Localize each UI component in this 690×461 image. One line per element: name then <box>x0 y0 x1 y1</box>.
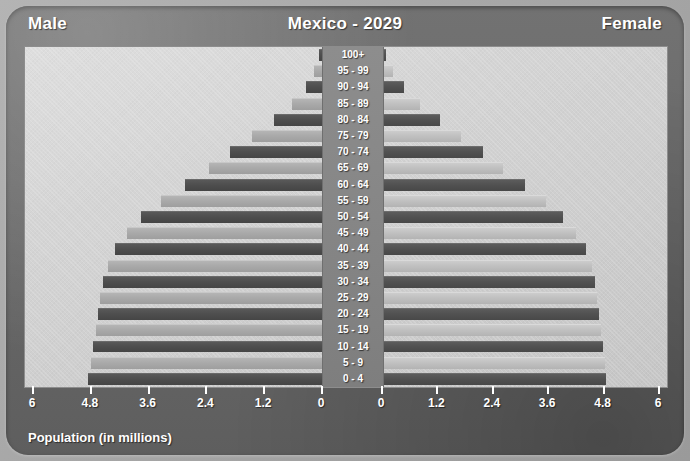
male-bar <box>252 130 322 142</box>
age-group-label: 90 - 94 <box>323 82 383 92</box>
figure-header: Male Mexico - 2029 Female <box>6 6 684 40</box>
axis-tick <box>90 386 92 394</box>
axis-tick-label-right: 6 <box>638 396 678 410</box>
male-bar <box>88 373 322 385</box>
figure-frame: Male Mexico - 2029 Female 100+95 - 9990 … <box>6 6 684 455</box>
age-group-label: 55 - 59 <box>323 196 383 206</box>
axis-tick <box>205 386 207 394</box>
male-bar <box>96 324 322 336</box>
axis-tick <box>547 386 549 394</box>
male-bar <box>230 146 322 158</box>
axis-tick-label-right: 2.4 <box>472 396 512 410</box>
male-bar <box>93 341 322 353</box>
axis-tick <box>32 386 34 394</box>
female-bar <box>382 292 597 304</box>
age-group-label: 0 - 4 <box>323 374 383 384</box>
population-pyramid-figure: Male Mexico - 2029 Female 100+95 - 9990 … <box>0 0 690 461</box>
age-group-label: 15 - 19 <box>323 325 383 335</box>
age-group-label: 35 - 39 <box>323 261 383 271</box>
age-group-label: 45 - 49 <box>323 228 383 238</box>
age-group-label: 40 - 44 <box>323 244 383 254</box>
age-group-label: 100+ <box>323 50 383 60</box>
axis-tick <box>263 386 265 394</box>
x-axis: 64.83.62.41.2001.22.43.64.86 <box>24 386 666 422</box>
age-group-label: 60 - 64 <box>323 180 383 190</box>
male-bar <box>306 81 322 93</box>
female-bar <box>382 260 592 272</box>
axis-tick <box>658 386 660 394</box>
age-group-label: 25 - 29 <box>323 293 383 303</box>
age-group-label: 65 - 69 <box>323 163 383 173</box>
female-bar <box>382 211 563 223</box>
age-group-label: 30 - 34 <box>323 277 383 287</box>
age-group-label: 95 - 99 <box>323 66 383 76</box>
female-bar <box>382 243 586 255</box>
female-bar <box>382 357 605 369</box>
axis-tick-label-left: 1.2 <box>243 396 283 410</box>
age-group-label: 20 - 24 <box>323 309 383 319</box>
male-bar <box>103 276 322 288</box>
female-bar <box>382 195 546 207</box>
female-bar <box>382 227 576 239</box>
female-bar <box>382 98 420 110</box>
axis-tick <box>603 386 605 394</box>
age-label-column: 100+95 - 9990 - 9485 - 8980 - 8475 - 797… <box>322 47 384 387</box>
male-bar <box>274 114 322 126</box>
male-bar <box>115 243 322 255</box>
male-bar <box>161 195 322 207</box>
male-bar <box>127 227 322 239</box>
female-bar <box>382 130 461 142</box>
axis-tick-label-left: 0 <box>301 396 341 410</box>
age-group-label: 70 - 74 <box>323 147 383 157</box>
chart-title: Mexico - 2029 <box>6 14 684 34</box>
male-bar <box>108 260 322 272</box>
axis-tick-label-left: 6 <box>12 396 52 410</box>
female-bar <box>382 162 503 174</box>
age-group-label: 50 - 54 <box>323 212 383 222</box>
axis-tick-label-right: 1.2 <box>416 396 456 410</box>
female-bar <box>382 146 483 158</box>
age-group-label: 85 - 89 <box>323 99 383 109</box>
age-group-label: 75 - 79 <box>323 131 383 141</box>
male-bar <box>314 65 322 77</box>
axis-caption: Population (in millions) <box>28 430 172 445</box>
female-bar <box>382 341 603 353</box>
male-bar <box>91 357 322 369</box>
age-group-label: 5 - 9 <box>323 358 383 368</box>
female-bar <box>382 114 440 126</box>
male-bar <box>98 308 322 320</box>
axis-tick-label-left: 2.4 <box>185 396 225 410</box>
age-group-label: 80 - 84 <box>323 115 383 125</box>
axis-tick-label-right: 0 <box>361 396 401 410</box>
male-bar <box>185 179 322 191</box>
axis-tick <box>492 386 494 394</box>
axis-tick <box>381 386 383 394</box>
female-bar <box>382 276 595 288</box>
female-bar <box>382 81 404 93</box>
axis-tick-label-right: 4.8 <box>583 396 623 410</box>
axis-tick-label-left: 3.6 <box>128 396 168 410</box>
axis-tick <box>321 386 323 394</box>
axis-tick-label-left: 4.8 <box>70 396 110 410</box>
female-bar <box>382 179 525 191</box>
female-legend-label: Female <box>602 14 662 34</box>
axis-tick-label-right: 3.6 <box>527 396 567 410</box>
male-bar <box>141 211 322 223</box>
male-bar <box>292 98 322 110</box>
plot-area: 100+95 - 9990 - 9485 - 8980 - 8475 - 797… <box>24 46 668 388</box>
axis-tick <box>436 386 438 394</box>
male-bar <box>100 292 322 304</box>
female-bar <box>382 373 606 385</box>
male-bar <box>209 162 322 174</box>
age-group-label: 10 - 14 <box>323 342 383 352</box>
female-bar <box>382 324 601 336</box>
axis-tick <box>148 386 150 394</box>
female-bar <box>382 308 599 320</box>
